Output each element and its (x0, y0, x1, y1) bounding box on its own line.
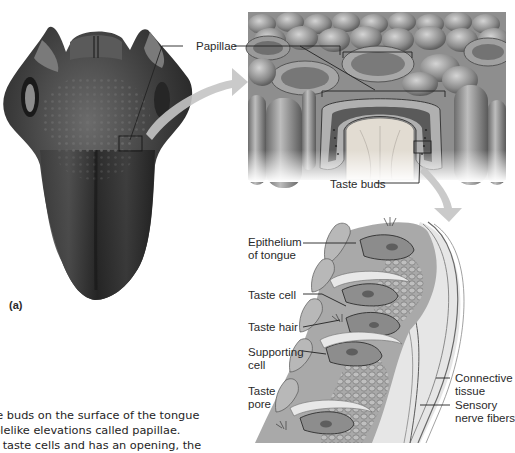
label-epithelium: Epithelium of tongue (248, 236, 302, 262)
panel-a-label: (a) (9, 299, 22, 311)
figure-caption: ste buds on the surface of the tongue pp… (0, 408, 246, 453)
papillae-panel (246, 12, 506, 188)
label-taste-hair: Taste hair (248, 321, 298, 334)
label-sensory-nerve-fibers: Sensory nerve fibers (455, 399, 515, 425)
label-taste-cell: Taste cell (248, 289, 296, 302)
label-supporting-cell: Supporting cell (248, 346, 304, 372)
label-taste-buds: Taste buds (330, 178, 386, 191)
label-taste-pore: Taste pore (248, 385, 276, 411)
caption-line: pplelike elevations called papillae. (0, 423, 246, 438)
caption-line: ns taste cells and has an opening, the (0, 438, 246, 453)
caption-line: ste buds on the surface of the tongue (0, 408, 246, 423)
label-connective-tissue: Connective tissue (455, 372, 513, 398)
label-papillae: Papillae (196, 40, 237, 53)
tongue-shape (3, 27, 192, 300)
